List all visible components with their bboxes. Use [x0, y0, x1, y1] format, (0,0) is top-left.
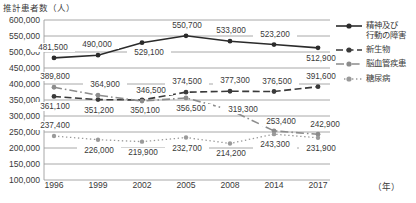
- legend-marker: [346, 47, 351, 52]
- data-point: [96, 97, 101, 102]
- data-point: [228, 141, 232, 145]
- x-axis-tick-label: 1996: [34, 180, 74, 190]
- y-axis-tick-label: 300,000: [0, 111, 40, 121]
- data-point-label: 346,500: [129, 86, 173, 95]
- x-axis-tick-label: 2017: [298, 180, 338, 190]
- data-point-label: 364,900: [83, 80, 127, 89]
- data-point: [140, 40, 145, 45]
- data-point-label: 237,400: [33, 121, 77, 130]
- data-point: [316, 84, 321, 89]
- data-point-label: 361,100: [33, 102, 77, 111]
- legend-marker: [346, 76, 351, 81]
- x-axis-unit-label: （年）: [373, 180, 400, 192]
- data-point-label: 377,300: [213, 76, 257, 85]
- data-point-label: 391,600: [299, 72, 343, 81]
- data-point: [140, 139, 144, 143]
- data-point: [96, 53, 101, 58]
- x-axis-tick-label: 2014: [254, 180, 294, 190]
- data-point-label: 219,900: [121, 148, 165, 157]
- x-axis-tick-label: 1999: [78, 180, 118, 190]
- data-point: [52, 94, 57, 99]
- data-point: [96, 93, 101, 98]
- data-point: [316, 136, 320, 140]
- data-point-label: 356,500: [169, 104, 213, 113]
- data-point: [272, 132, 276, 136]
- data-point-label: 523,200: [253, 30, 297, 39]
- y-axis-tick-label: 200,000: [0, 143, 40, 153]
- data-point-label: 231,900: [299, 144, 343, 153]
- data-point-label: 374,500: [165, 77, 209, 86]
- y-axis-tick-label: 600,000: [0, 15, 40, 25]
- data-point-label: 550,700: [165, 21, 209, 30]
- x-axis-tick-label: 2008: [210, 180, 250, 190]
- data-point-label: 319,300: [221, 105, 265, 114]
- legend-label-line2: 行動の障害: [366, 30, 406, 40]
- data-point: [272, 42, 277, 47]
- data-point: [228, 89, 233, 94]
- legend-label: 糖尿病: [366, 73, 390, 83]
- data-point-label: 490,000: [75, 40, 119, 49]
- data-point-label: 351,200: [77, 106, 121, 115]
- data-point-label: 533,800: [209, 26, 253, 35]
- data-point: [52, 134, 56, 138]
- data-point-label: 529,100: [127, 48, 171, 57]
- data-point: [52, 85, 57, 90]
- series-layer: [52, 33, 321, 145]
- data-point-label: 512,900: [299, 54, 343, 63]
- data-point-label: 226,000: [77, 146, 121, 155]
- x-axis-tick-label: 2002: [122, 180, 162, 190]
- y-axis-tick-label: 150,000: [0, 159, 40, 169]
- data-point: [184, 33, 189, 38]
- data-point-label: 481,500: [31, 43, 75, 52]
- legend-marker: [346, 61, 351, 66]
- legend-label: 精神及び: [366, 20, 398, 30]
- data-point-label: 350,100: [123, 106, 167, 115]
- y-axis-tick-label: 550,000: [0, 31, 40, 41]
- data-point: [184, 135, 188, 139]
- x-axis-tick-label: 2005: [166, 180, 206, 190]
- legend-marker: [346, 23, 351, 28]
- data-point: [184, 90, 189, 95]
- data-point: [316, 45, 321, 50]
- data-point-label: 242,900: [303, 120, 347, 129]
- data-point-label: 253,400: [259, 117, 303, 126]
- data-point-label: 376,500: [255, 77, 299, 86]
- data-point-label: 389,800: [33, 72, 77, 81]
- data-point: [272, 89, 277, 94]
- data-point: [96, 137, 100, 141]
- data-point: [228, 39, 233, 44]
- data-point: [184, 96, 189, 101]
- data-point: [140, 99, 145, 104]
- data-point-label: 232,700: [165, 144, 209, 153]
- legend-label: 新生物: [366, 44, 390, 54]
- legend-label: 脳血管疾患: [366, 58, 406, 68]
- data-point-label: 214,200: [209, 149, 253, 158]
- data-point-label: 243,300: [253, 140, 297, 149]
- data-point: [52, 56, 57, 61]
